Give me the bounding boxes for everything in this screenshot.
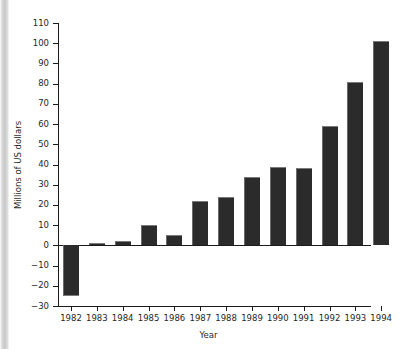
y-tick-mark xyxy=(53,225,59,226)
y-tick-label: 80 xyxy=(38,79,49,88)
x-tick-label-1983: 1983 xyxy=(83,313,111,323)
y-tick-label: 50 xyxy=(38,140,49,149)
y-tick-label: 0 xyxy=(44,241,49,250)
y-tick-label: −20 xyxy=(31,281,49,290)
y-tick-label: 100 xyxy=(33,39,49,48)
x-tick-mark xyxy=(252,306,253,311)
plot-area: −30−20−100102030405060708090100110 19821… xyxy=(0,0,417,349)
y-tick-label: 110 xyxy=(33,19,49,28)
bar-1988 xyxy=(218,197,234,246)
x-tick-mark xyxy=(381,306,382,311)
bar-1991 xyxy=(296,168,312,246)
x-tick-mark xyxy=(97,306,98,311)
x-tick-mark xyxy=(71,306,72,311)
x-axis-line xyxy=(58,306,371,307)
bar-1984 xyxy=(115,241,131,245)
x-tick-label-1990: 1990 xyxy=(264,313,292,323)
x-tick-label-1989: 1989 xyxy=(238,313,266,323)
y-tick-mark xyxy=(53,245,59,246)
y-tick-mark xyxy=(53,144,59,145)
y-tick-label: 60 xyxy=(38,120,49,129)
bar-1987 xyxy=(192,201,208,246)
y-axis-title: Millions of US dollars xyxy=(13,85,23,245)
x-tick-label-1984: 1984 xyxy=(109,313,137,323)
y-tick-mark xyxy=(53,84,59,85)
y-tick-mark xyxy=(53,63,59,64)
y-tick-mark xyxy=(53,306,59,307)
x-tick-label-1987: 1987 xyxy=(186,313,214,323)
bar-1992 xyxy=(322,126,338,245)
bar-1994 xyxy=(373,41,389,245)
y-tick-label: 20 xyxy=(38,200,49,209)
chart-figure: −30−20−100102030405060708090100110 19821… xyxy=(0,0,417,349)
y-tick-mark xyxy=(53,124,59,125)
x-tick-label-1992: 1992 xyxy=(316,313,344,323)
y-tick-label: −10 xyxy=(31,261,49,270)
bar-1982 xyxy=(63,245,79,296)
x-tick-mark xyxy=(355,306,356,311)
x-tick-label-1985: 1985 xyxy=(135,313,163,323)
x-tick-mark xyxy=(304,306,305,311)
y-tick-mark xyxy=(53,43,59,44)
x-tick-label-1988: 1988 xyxy=(212,313,240,323)
bar-1990 xyxy=(270,167,286,246)
y-tick-label: 70 xyxy=(38,99,49,108)
y-tick-label: 90 xyxy=(38,59,49,68)
y-tick-mark xyxy=(53,104,59,105)
bar-1993 xyxy=(347,82,363,246)
x-tick-label-1982: 1982 xyxy=(57,313,85,323)
y-tick-label: 10 xyxy=(38,221,49,230)
bar-1989 xyxy=(244,177,260,246)
x-tick-mark xyxy=(123,306,124,311)
y-tick-label: 40 xyxy=(38,160,49,169)
x-tick-mark xyxy=(226,306,227,311)
y-tick-mark xyxy=(53,286,59,287)
x-tick-mark xyxy=(278,306,279,311)
y-tick-label: −30 xyxy=(31,302,49,311)
x-tick-label-1993: 1993 xyxy=(341,313,369,323)
y-tick-mark xyxy=(53,266,59,267)
bar-1985 xyxy=(141,225,157,245)
bar-1986 xyxy=(166,235,182,245)
y-tick-mark xyxy=(53,23,59,24)
y-tick-mark xyxy=(53,185,59,186)
y-tick-label: 30 xyxy=(38,180,49,189)
x-tick-label-1994: 1994 xyxy=(367,313,395,323)
y-tick-mark xyxy=(53,165,59,166)
x-tick-mark xyxy=(330,306,331,311)
x-tick-mark xyxy=(200,306,201,311)
x-tick-mark xyxy=(174,306,175,311)
x-tick-mark xyxy=(149,306,150,311)
bar-1983 xyxy=(89,243,105,245)
x-axis-title: Year xyxy=(0,330,417,340)
y-tick-mark xyxy=(53,205,59,206)
x-tick-label-1991: 1991 xyxy=(290,313,318,323)
x-tick-label-1986: 1986 xyxy=(160,313,188,323)
